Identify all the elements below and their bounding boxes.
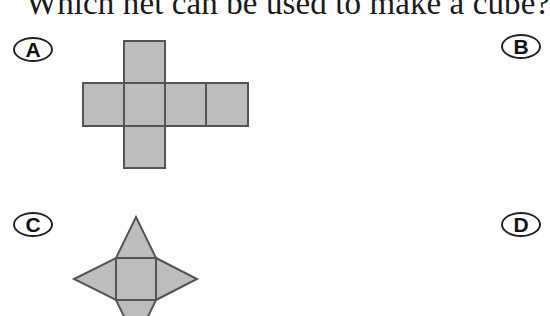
net-a-face-top <box>124 41 165 83</box>
net-a-face-right <box>165 83 206 126</box>
net-a-face-far-right <box>206 83 248 126</box>
net-a-face-center <box>124 83 165 126</box>
net-a-face-left <box>83 83 124 126</box>
option-d-label: D <box>513 214 528 235</box>
option-a-label: A <box>25 39 40 60</box>
net-c <box>74 217 197 316</box>
net-c-triangle-top <box>116 217 156 258</box>
net-a <box>83 41 248 168</box>
net-c-triangle-right <box>156 258 197 300</box>
option-b-label: B <box>513 36 528 57</box>
question-text: Which net can be used to make a cube? <box>26 0 550 23</box>
net-c-face-square <box>116 258 156 300</box>
option-a-badge[interactable]: A <box>13 37 53 62</box>
net-c-triangle-left <box>74 258 116 300</box>
net-a-face-bottom <box>124 126 165 168</box>
option-b-badge[interactable]: B <box>501 34 541 59</box>
option-d-badge[interactable]: D <box>501 212 541 237</box>
net-c-triangle-bottom <box>116 300 156 316</box>
option-c-label: C <box>25 214 40 235</box>
option-c-badge[interactable]: C <box>13 212 53 237</box>
